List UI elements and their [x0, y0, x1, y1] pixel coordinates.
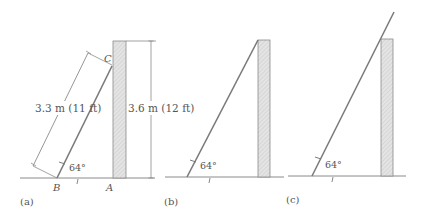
angle-label-c: 64° — [325, 159, 342, 170]
angle-arc-c — [315, 157, 321, 159]
wall-b — [258, 40, 270, 177]
angle-label-a: 64° — [69, 162, 86, 173]
wall-c — [381, 39, 393, 176]
panel-c: 64° (c) — [286, 12, 406, 205]
panel-a: 3.3 m (11 ft) 3.6 m (12 ft) 64° C B A (a… — [20, 41, 194, 207]
ground-tick-b — [209, 178, 210, 183]
wall-height-label: 3.6 m (12 ft) — [128, 102, 194, 114]
point-a-label: A — [105, 182, 113, 193]
panel-b: 64° (b) — [164, 40, 284, 207]
ground-tick-a — [77, 179, 78, 184]
point-b-label: B — [52, 182, 60, 193]
ground-tick-c — [332, 177, 333, 182]
ladder-wall-figure: 3.3 m (11 ft) 3.6 m (12 ft) 64° C B A (a… — [0, 0, 423, 216]
caption-a: (a) — [20, 196, 34, 207]
wall-a — [113, 41, 126, 178]
ladder-length-label: 3.3 m (11 ft) — [35, 102, 101, 114]
caption-b: (b) — [164, 196, 178, 207]
ladder-b — [187, 40, 258, 177]
figure-svg: 3.3 m (11 ft) 3.6 m (12 ft) 64° C B A (a… — [0, 0, 423, 216]
caption-c: (c) — [286, 194, 300, 205]
angle-label-b: 64° — [200, 160, 217, 171]
point-c-label: C — [104, 53, 112, 64]
